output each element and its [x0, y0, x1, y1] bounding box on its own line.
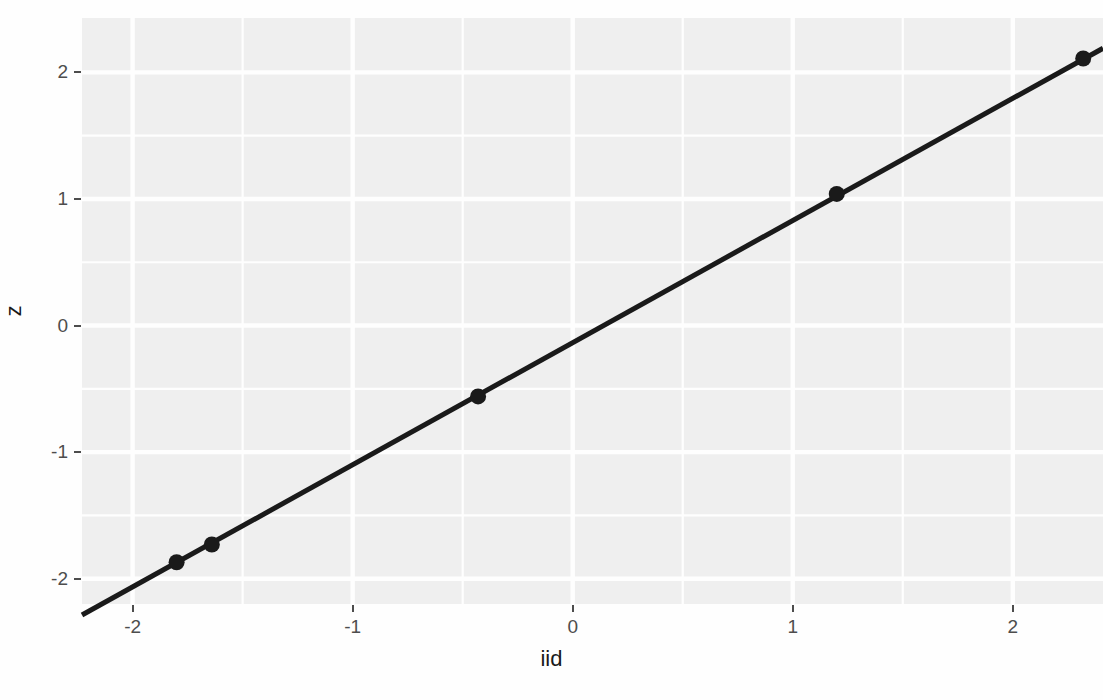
fit-line	[82, 48, 1103, 615]
data-layer	[82, 18, 1103, 604]
y-tick-label: -2	[20, 568, 68, 590]
x-tick-label: 1	[787, 616, 798, 638]
chart-figure: z iid -2-1012-2-1012	[0, 0, 1103, 700]
data-point	[169, 554, 185, 570]
x-tick-mark	[132, 605, 134, 612]
x-tick-mark	[792, 605, 794, 612]
data-point	[1075, 51, 1091, 67]
x-tick-mark	[572, 605, 574, 612]
x-tick-label: 2	[1007, 616, 1018, 638]
y-tick-label: 2	[20, 61, 68, 83]
y-tick-mark	[74, 198, 81, 200]
data-point	[204, 537, 220, 553]
data-point	[470, 388, 486, 404]
x-tick-label: 0	[567, 616, 578, 638]
y-tick-label: 0	[20, 315, 68, 337]
plot-panel	[82, 18, 1103, 604]
x-tick-label: -2	[124, 616, 141, 638]
y-tick-mark	[74, 71, 81, 73]
x-axis-title: iid	[0, 646, 1103, 672]
y-tick-label: -1	[20, 441, 68, 463]
y-tick-mark	[74, 451, 81, 453]
y-tick-mark	[74, 325, 81, 327]
clipped-header-text	[0, 0, 1103, 1]
x-tick-label: -1	[344, 616, 361, 638]
data-point	[829, 186, 845, 202]
y-tick-label: 1	[20, 188, 68, 210]
y-tick-mark	[74, 578, 81, 580]
x-tick-mark	[352, 605, 354, 612]
x-tick-mark	[1012, 605, 1014, 612]
